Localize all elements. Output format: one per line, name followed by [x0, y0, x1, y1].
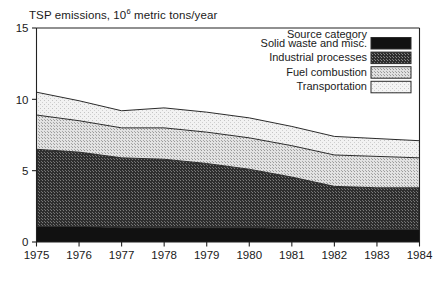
- x-tick-label: 1984: [407, 249, 433, 261]
- legend: Source categorySolid waste and misc.Indu…: [261, 28, 411, 93]
- legend-swatch: [371, 81, 411, 93]
- x-tick-label: 1977: [109, 249, 135, 261]
- x-tick-label: 1982: [322, 249, 348, 261]
- x-tick-label: 1983: [364, 249, 390, 261]
- x-tick-label: 1978: [151, 249, 177, 261]
- legend-item-label: Transportation: [296, 80, 367, 92]
- y-tick-label: 5: [22, 165, 28, 177]
- x-tick-label: 1976: [66, 249, 92, 261]
- y-tick-label: 15: [16, 22, 29, 34]
- chart-figure: TSP emissions, 106 metric tons/year: [0, 0, 436, 287]
- y-tick-label: 0: [22, 236, 28, 248]
- legend-swatch: [371, 38, 411, 50]
- stacked-area-plot: 051015 197519761977197819791980198119821…: [0, 0, 436, 287]
- x-tick-label: 1981: [279, 249, 305, 261]
- x-tick-label: 1979: [194, 249, 220, 261]
- legend-item-label: Solid waste and misc.: [261, 37, 367, 49]
- legend-swatch: [371, 52, 411, 64]
- y-tick-label: 10: [16, 94, 29, 106]
- legend-item-label: Fuel combustion: [286, 66, 367, 78]
- x-tick-label: 1980: [236, 249, 262, 261]
- y-axis-ticks: 051015: [16, 22, 37, 248]
- legend-swatch: [371, 67, 411, 79]
- x-axis-ticks: 1975197619771978197919801981198219831984: [24, 242, 433, 261]
- legend-item-label: Industrial processes: [269, 51, 367, 63]
- x-tick-label: 1975: [24, 249, 50, 261]
